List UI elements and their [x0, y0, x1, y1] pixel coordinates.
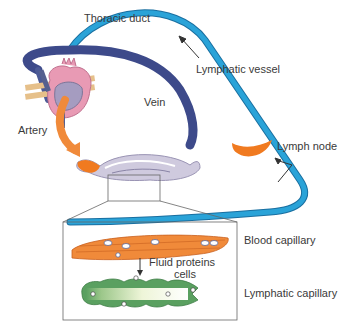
- label-fluid-proteins: Fluid proteins: [149, 256, 215, 268]
- lymphatic-capillary-detail: [82, 276, 198, 307]
- label-thoracic-duct: Thoracic duct: [84, 12, 150, 24]
- flow-arrows: [179, 36, 292, 182]
- label-cells: cells: [174, 268, 196, 280]
- lymphatic-circulation-diagram: [0, 0, 351, 330]
- label-lymphatic-vessel: Lymphatic vessel: [196, 63, 280, 75]
- fluid-down-arrow: [137, 258, 143, 276]
- lymph-node: [232, 140, 272, 156]
- label-lymphatic-capillary: Lymphatic capillary: [244, 287, 337, 299]
- label-vein: Vein: [144, 96, 165, 108]
- label-artery: Artery: [18, 124, 47, 136]
- capillary-bed: [77, 155, 200, 181]
- label-lymph-node: Lymph node: [277, 140, 337, 152]
- label-blood-capillary: Blood capillary: [244, 234, 316, 246]
